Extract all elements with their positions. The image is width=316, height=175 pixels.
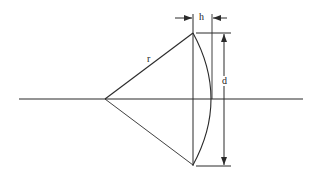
radius-line-upper: [105, 33, 193, 99]
label-r: r: [147, 53, 151, 64]
label-d: d: [222, 75, 227, 86]
spherical-cap-diagram: h r d: [0, 0, 316, 175]
label-h: h: [199, 11, 204, 22]
radius-line-lower: [105, 99, 193, 165]
